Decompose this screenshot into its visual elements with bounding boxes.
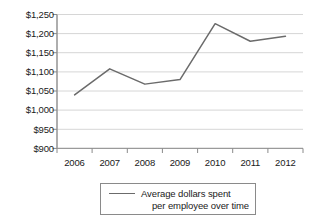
legend-label-line1: Average dollars spent [141, 188, 253, 200]
y-axis-tick-labels: $1,250 $1,200 $1,150 $1,100 $1,050 $1,00… [0, 0, 54, 223]
legend-label-line2: per employee over time [141, 200, 249, 212]
x-tick-label-2006: 2006 [58, 158, 92, 168]
y-tick-label-950: $950 [2, 125, 54, 135]
line-chart: $1,250 $1,200 $1,150 $1,100 $1,050 $1,00… [0, 0, 313, 223]
x-tick-label-2008: 2008 [128, 158, 162, 168]
y-tick-label-900: $900 [2, 144, 54, 154]
y-tick-label-1100: $1,100 [2, 67, 54, 77]
x-tick-label-2011: 2011 [233, 158, 267, 168]
x-axis [57, 148, 303, 153]
chart-legend: Average dollars spent per employee over … [100, 183, 256, 215]
y-tick-label-1150: $1,150 [2, 48, 54, 58]
y-tick-label-1000: $1,000 [2, 105, 54, 115]
y-tick-label-1250: $1,250 [2, 10, 54, 20]
y-tick-label-1050: $1,050 [2, 86, 54, 96]
y-tick-label-1200: $1,200 [2, 29, 54, 39]
gridlines [57, 15, 303, 130]
x-tick-label-2009: 2009 [163, 158, 197, 168]
x-tick-label-2010: 2010 [198, 158, 232, 168]
x-tick-label-2007: 2007 [93, 158, 127, 168]
data-series-line [75, 24, 286, 95]
x-tick-label-2012: 2012 [268, 158, 302, 168]
legend-label: Average dollars spent per employee over … [141, 188, 253, 211]
legend-line-swatch [109, 193, 135, 194]
